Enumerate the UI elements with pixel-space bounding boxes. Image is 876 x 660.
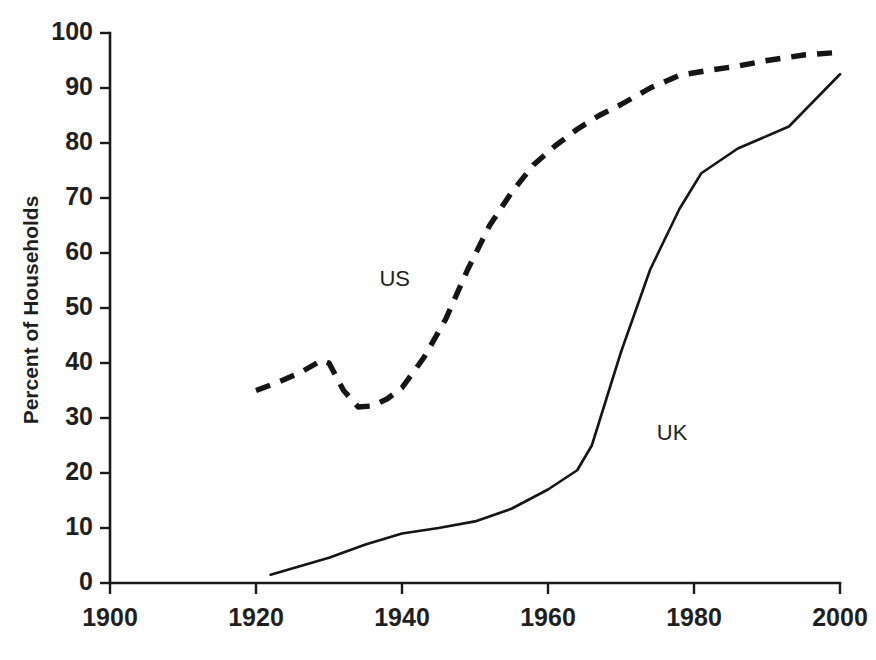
x-axis-tick-labels: 190019201940196019802000 (82, 603, 868, 631)
x-tick-label: 1900 (82, 603, 138, 631)
x-tick-label: 2000 (812, 603, 868, 631)
y-tick-label: 30 (65, 402, 93, 430)
y-axis-ticks (100, 33, 110, 583)
line-chart: 0102030405060708090100 19001920194019601… (0, 0, 876, 660)
chart-container: 0102030405060708090100 19001920194019601… (0, 0, 876, 660)
series-label-us: US (379, 266, 410, 291)
series-line-us (256, 52, 840, 407)
series-label-uk: UK (657, 420, 688, 445)
y-axis-tick-labels: 0102030405060708090100 (51, 17, 93, 595)
x-tick-label: 1960 (520, 603, 576, 631)
y-tick-label: 70 (65, 182, 93, 210)
y-tick-label: 90 (65, 72, 93, 100)
x-tick-label: 1920 (228, 603, 284, 631)
y-tick-label: 100 (51, 17, 93, 45)
y-tick-label: 60 (65, 237, 93, 265)
data-series-group (256, 52, 840, 575)
y-tick-label: 40 (65, 347, 93, 375)
y-axis-title: Percent of Households (19, 196, 42, 425)
x-axis-ticks (110, 583, 840, 594)
y-tick-label: 20 (65, 457, 93, 485)
y-tick-label: 80 (65, 127, 93, 155)
y-tick-label: 0 (79, 567, 93, 595)
y-tick-label: 50 (65, 292, 93, 320)
x-tick-label: 1940 (374, 603, 430, 631)
y-tick-label: 10 (65, 512, 93, 540)
x-tick-label: 1980 (666, 603, 722, 631)
